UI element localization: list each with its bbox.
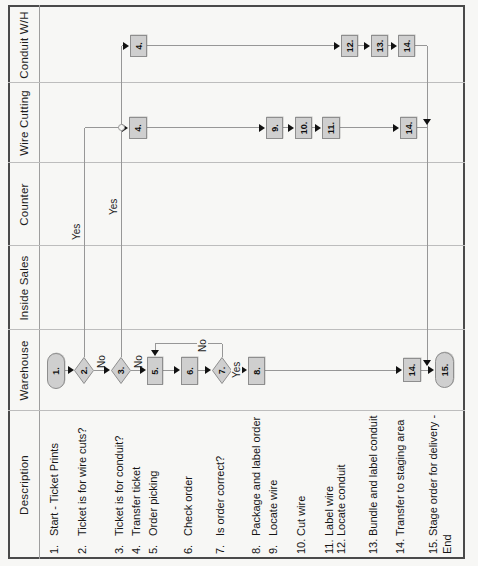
description-item: 15.Stage order for delivery - xyxy=(427,412,439,554)
shape-step4-wire_cutting: 4. xyxy=(129,117,147,139)
description-item: 2.Ticket is for wire cuts? xyxy=(76,412,88,554)
shape-step-number: 1. xyxy=(51,367,61,375)
description-item: 12.Locate conduit xyxy=(335,412,347,554)
flow-arrowhead xyxy=(396,366,402,374)
item-text: Transfer ticket xyxy=(130,467,142,536)
lane-header-warehouse: Warehouse xyxy=(15,330,33,411)
item-text: Stage order for delivery - xyxy=(427,415,439,536)
description-item: 6.Check order xyxy=(182,412,194,554)
shape-step12-conduit_wh: 12. xyxy=(341,35,358,57)
description-item: 13.Bundle and label conduit xyxy=(367,412,379,554)
item-number: 15. xyxy=(427,536,439,554)
item-number: 7. xyxy=(214,536,226,554)
shape-step14-wire_cutting: 14. xyxy=(400,117,417,139)
item-text: Transfer to staging area xyxy=(394,420,406,536)
flow-arrowhead xyxy=(315,124,321,132)
item-text: Locate wire xyxy=(267,480,279,536)
flow-arrowhead xyxy=(205,366,211,374)
lane-header-counter: Counter xyxy=(15,163,33,246)
item-text: Cut wire xyxy=(295,496,307,536)
description-item: 9.Locate wire xyxy=(267,412,279,554)
flow-line xyxy=(84,128,85,357)
shape-step6-warehouse: 6. xyxy=(181,357,198,385)
item-number: 3. xyxy=(113,536,125,554)
shape-step-number: 5. xyxy=(150,367,160,375)
item-number: 2. xyxy=(76,536,88,554)
item-number: 8. xyxy=(250,536,262,554)
flow-arrowhead xyxy=(428,366,434,374)
item-number: 5. xyxy=(147,536,159,554)
flow-line xyxy=(121,46,122,357)
shape-step-number: 9. xyxy=(270,124,280,132)
description-item: 14.Transfer to staging area xyxy=(394,412,406,554)
shape-step7-warehouse: 7. xyxy=(212,357,232,384)
edge-label-yes: Yes xyxy=(108,199,119,215)
edge-label-yes: Yes xyxy=(231,361,242,379)
item-text: Package and label order xyxy=(250,417,262,536)
shape-step-number: 4. xyxy=(134,42,144,50)
flow-line xyxy=(415,45,427,46)
lane-separator-inside_sales xyxy=(8,329,465,330)
shape-step2-warehouse: 2. xyxy=(74,357,94,384)
flowchart-canvas: DescriptionWarehouseInside SalesCounterW… xyxy=(0,0,478,566)
item-text: Ticket is for conduit? xyxy=(113,436,125,536)
shape-step10-wire_cutting: 10. xyxy=(295,117,312,139)
lane-header-inside_sales: Inside Sales xyxy=(15,246,33,330)
description-item: 3.Ticket is for conduit? xyxy=(113,412,125,554)
shape-step-number: 14. xyxy=(404,122,414,135)
description-item: 1.Start - Ticket Prints xyxy=(48,412,60,554)
shape-step-number: 13. xyxy=(375,40,385,53)
item-text: Bundle and label conduit xyxy=(367,416,379,536)
flow-arrowhead xyxy=(123,42,129,50)
lane-separator-counter xyxy=(8,245,465,246)
item-text: Order picking xyxy=(147,471,159,536)
shape-step-number: 8. xyxy=(252,367,262,375)
shape-step13-conduit_wh: 13. xyxy=(371,35,388,57)
flow-arrowhead xyxy=(423,119,431,125)
shape-step8-warehouse: 8. xyxy=(248,357,265,385)
flow-line xyxy=(155,343,222,344)
shape-step-number: 10. xyxy=(299,122,309,135)
edge-label-no: No xyxy=(96,355,107,368)
item-number: 9. xyxy=(267,536,279,554)
line-crossing-hop xyxy=(118,124,125,131)
shape-step-number: 11. xyxy=(326,122,336,134)
flow-line xyxy=(147,127,259,128)
item-number: 6. xyxy=(182,536,194,554)
shape-step-number: 12. xyxy=(345,40,355,53)
item-text: Check order xyxy=(182,476,194,536)
shape-step-number: 14. xyxy=(407,364,417,377)
flow-line xyxy=(417,127,427,128)
flow-line xyxy=(265,370,397,371)
lane-header-description: Description xyxy=(15,411,33,559)
description-item: 7.Is order correct? xyxy=(214,412,226,554)
shape-step14-warehouse: 14. xyxy=(403,358,421,382)
item-text: Locate conduit xyxy=(335,464,347,536)
flow-arrowhead xyxy=(393,124,399,132)
flow-arrowhead xyxy=(259,124,265,132)
lane-header-conduit_wh: Conduit W/H xyxy=(15,7,33,83)
shape-step11-wire_cutting: 11. xyxy=(322,117,340,139)
shape-step-number: 15. xyxy=(440,364,450,377)
shape-step5-warehouse: 5. xyxy=(147,357,163,385)
item-text: Label wire xyxy=(323,486,335,536)
item-text-line2: End xyxy=(441,412,453,554)
edge-label-no: No xyxy=(133,355,144,368)
item-text: Ticket is for wire cuts? xyxy=(76,428,88,536)
flow-arrowhead xyxy=(423,360,431,366)
description-item: 4.Transfer ticket xyxy=(130,412,142,554)
item-number: 1. xyxy=(48,536,60,554)
header-divider xyxy=(39,5,40,559)
flow-line xyxy=(427,46,428,365)
flow-line xyxy=(222,344,223,357)
item-number: 4. xyxy=(130,536,142,554)
shape-step-number: 2. xyxy=(79,367,89,375)
description-item: 8.Package and label order xyxy=(250,412,262,554)
shape-step14-conduit_wh: 14. xyxy=(398,35,415,57)
lane-separator-conduit_wh xyxy=(8,82,465,83)
flow-arrowhead xyxy=(364,42,370,50)
description-item: 10.Cut wire xyxy=(295,412,307,554)
item-number: 12. xyxy=(335,536,347,554)
shape-step1-warehouse: 1. xyxy=(47,353,65,389)
item-number: 14. xyxy=(394,536,406,554)
